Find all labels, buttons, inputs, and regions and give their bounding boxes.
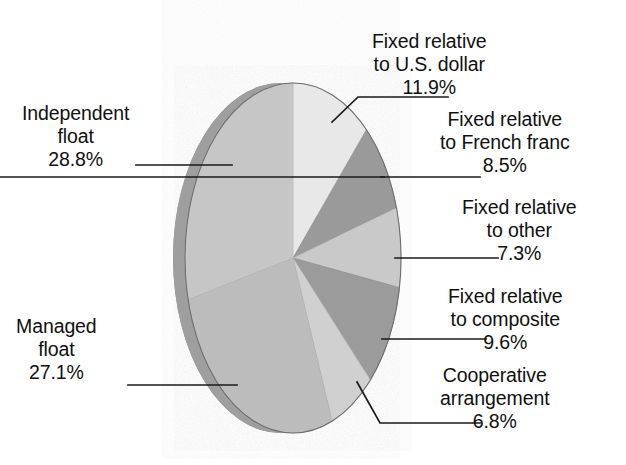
slice-label-percent: 11.9% — [372, 76, 487, 99]
slice-label-fixed-us-dollar: Fixed relative to U.S. dollar 11.9% — [372, 30, 487, 99]
slice-label-line1: Independent — [22, 102, 129, 125]
slice-label-cooperative-arrangement: Cooperative arrangement 6.8% — [440, 364, 549, 433]
slice-label-line2: arrangement — [440, 387, 549, 410]
slice-label-percent: 28.8% — [22, 148, 129, 171]
pie-chart-figure: Fixed relative to U.S. dollar 11.9% Fixe… — [0, 0, 626, 465]
slice-label-percent: 6.8% — [440, 410, 549, 433]
slice-label-fixed-french-franc: Fixed relative to French franc 8.5% — [440, 108, 570, 177]
slice-label-percent: 9.6% — [448, 331, 563, 354]
slice-label-line2: float — [22, 125, 129, 148]
slice-label-independent-float: Independent float 28.8% — [22, 102, 129, 171]
slice-label-line1: Fixed relative — [448, 285, 563, 308]
slice-label-line1: Fixed relative — [372, 30, 487, 53]
slice-label-line2: to French franc — [440, 131, 570, 154]
slice-label-fixed-other: Fixed relative to other 7.3% — [462, 196, 577, 265]
slice-label-line1: Fixed relative — [440, 108, 570, 131]
slice-label-line2: float — [16, 338, 97, 361]
pie-slices — [185, 83, 401, 433]
slice-label-percent: 7.3% — [462, 242, 577, 265]
slice-label-percent: 27.1% — [16, 361, 97, 384]
slice-label-line2: to U.S. dollar — [372, 53, 487, 76]
slice-label-line2: to other — [462, 219, 577, 242]
slice-label-fixed-composite: Fixed relative to composite 9.6% — [448, 285, 563, 354]
slice-label-managed-float: Managed float 27.1% — [16, 315, 97, 384]
slice-label-line1: Fixed relative — [462, 196, 577, 219]
slice-label-line2: to composite — [448, 308, 563, 331]
slice-label-percent: 8.5% — [440, 154, 570, 177]
slice-label-line1: Cooperative — [440, 364, 549, 387]
slice-label-line1: Managed — [16, 315, 97, 338]
